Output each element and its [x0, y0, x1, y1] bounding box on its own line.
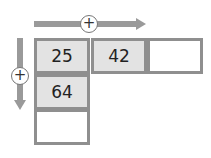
cell-r3c1-empty[interactable] [34, 109, 90, 145]
plus-icon: + [80, 15, 98, 33]
cell-r2c1: 64 [34, 74, 90, 110]
cell-r1c2: 42 [91, 38, 147, 74]
plus-icon: + [11, 67, 29, 85]
arrow-down-icon [14, 100, 26, 110]
cell-r1c1: 25 [34, 38, 90, 74]
cell-r1c3-empty[interactable] [147, 38, 203, 74]
arrow-right-icon [136, 18, 146, 30]
